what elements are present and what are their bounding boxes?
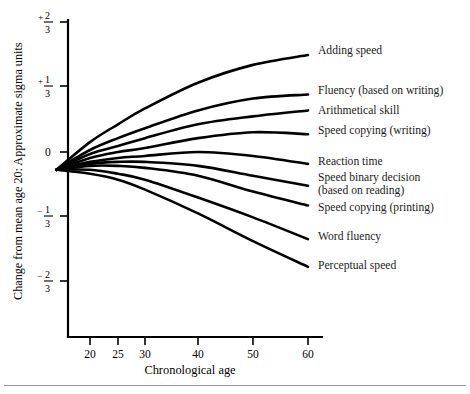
y-tick-label-zero: 0 [45,146,51,158]
y-tick-label-minus-one-third: − 1 3 [37,204,53,229]
y-tick-sign: − [37,271,42,281]
y-tick-denominator: 3 [45,218,50,229]
y-tick-sign: − [37,206,42,216]
y-axis-title: Change from mean age 20: Approximate sig… [11,42,25,300]
series-label-reaction-time: Reaction time [318,155,383,168]
curve-group [56,55,308,267]
series-label-group: Adding speed Fluency (based on writing) … [318,44,443,272]
x-tick-label: 40 [192,348,204,360]
x-tick-label: 30 [139,348,151,360]
y-tick-sign: + [38,76,43,86]
series-label-word-fluency: Word fluency [318,230,381,243]
y-tick-denominator: 3 [45,283,50,294]
y-tick-numerator: 2 [45,269,50,280]
curve-perceptual-speed [56,170,308,267]
series-label-fluency-writing: Fluency (based on writing) [318,84,443,97]
y-axis-ticks [60,22,68,281]
x-tick-label: 20 [84,348,96,360]
y-tick-denominator: 3 [45,24,50,35]
curve-reaction-time [56,152,308,170]
y-tick-label-plus-two-thirds: + 2 3 [38,10,53,35]
series-label-speed-copying-writing: Speed copying (writing) [318,124,431,137]
y-tick-label-minus-two-thirds: − 2 3 [37,269,53,294]
x-axis-ticks [90,337,308,345]
x-axis-title: Chronological age [144,363,236,377]
y-tick-value: 0 [45,146,51,158]
y-tick-numerator: 2 [45,10,50,21]
x-tick-label: 50 [247,348,259,360]
y-tick-numerator: 1 [45,204,50,215]
y-tick-denominator: 3 [45,88,50,99]
y-tick-sign: + [38,12,43,22]
series-label-speed-copying-printing: Speed copying (printing) [318,201,434,214]
series-label-speed-binary-decision: Speed binary decision [318,171,421,184]
series-label-adding-speed: Adding speed [318,44,382,57]
growth-decline-line-chart: Change from mean age 20: Approximate sig… [0,0,470,394]
series-label-arithmetical-skill: Arithmetical skill [318,104,399,117]
curve-speed-copying-printing [56,165,308,205]
series-label-based-on-reading: (based on reading) [318,184,404,197]
y-axis-title-text: Change from mean age 20: Approximate sig… [11,42,25,300]
series-label-perceptual-speed: Perceptual speed [318,259,396,272]
y-tick-label-plus-one-third: + 1 3 [38,74,53,99]
x-tick-label: 60 [302,348,314,360]
x-tick-label: 25 [112,348,124,360]
x-axis-tick-labels: 20 25 30 40 50 60 [84,348,314,360]
y-tick-numerator: 1 [45,74,50,85]
